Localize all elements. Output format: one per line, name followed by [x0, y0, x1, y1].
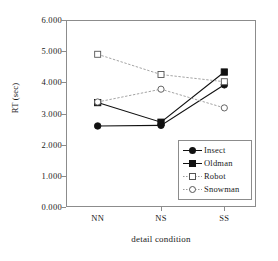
data-point [158, 86, 164, 92]
y-axis-tick-labels: 0.0001.0002.0003.0004.0005.0006.000 [16, 0, 62, 261]
series-robot [95, 51, 228, 84]
y-axis-tick-mark [61, 20, 66, 21]
y-axis-tick-mark [61, 114, 66, 115]
x-axis-tick-label-ns: NS [141, 213, 181, 223]
data-point [158, 72, 164, 78]
y-axis-tick-label: 6.000 [20, 16, 62, 25]
y-axis-tick-mark [61, 145, 66, 146]
y-axis-tick-mark [61, 207, 66, 208]
legend-marker-icon [183, 184, 202, 195]
legend-marker-icon [183, 171, 202, 182]
legend-item-oldman: Oldman [183, 157, 248, 170]
data-point [221, 69, 227, 75]
x-axis-tick-label-ss: SS [204, 213, 244, 223]
legend-marker-icon [183, 158, 202, 169]
y-axis-tick-label: 4.000 [20, 78, 62, 87]
legend-label: Snowman [202, 184, 239, 195]
x-axis-tick-label-nn: NN [78, 213, 118, 223]
data-point [94, 123, 101, 130]
legend-label: Oldman [202, 158, 233, 169]
y-axis-title: RT (sec) [10, 63, 20, 133]
y-axis-tick-mark [61, 51, 66, 52]
chart-legend: InsectOldmanRobotSnowman [178, 140, 252, 200]
legend-label: Robot [202, 171, 226, 182]
line-chart: 0.0001.0002.0003.0004.0005.0006.000 RT (… [0, 0, 278, 261]
y-axis-tick-mark [61, 176, 66, 177]
y-axis-tick-label: 0.000 [20, 203, 62, 212]
y-axis-tick-mark [61, 82, 66, 83]
y-axis-tick-label: 1.000 [20, 172, 62, 181]
data-point [221, 79, 227, 85]
y-axis-tick-label: 3.000 [20, 110, 62, 119]
x-axis-tick-mark [224, 207, 225, 211]
legend-item-insect: Insect [183, 144, 248, 157]
legend-item-robot: Robot [183, 170, 248, 183]
legend-marker-icon [183, 145, 202, 156]
legend-item-snowman: Snowman [183, 183, 248, 196]
data-point [95, 51, 101, 57]
data-point [158, 119, 164, 125]
x-axis-title: detail condition [66, 234, 256, 244]
data-point [221, 105, 227, 111]
legend-label: Insect [202, 145, 226, 156]
x-axis-tick-mark [161, 207, 162, 211]
y-axis-tick-label: 2.000 [20, 141, 62, 150]
data-point [95, 99, 101, 105]
y-axis-tick-label: 5.000 [20, 47, 62, 56]
